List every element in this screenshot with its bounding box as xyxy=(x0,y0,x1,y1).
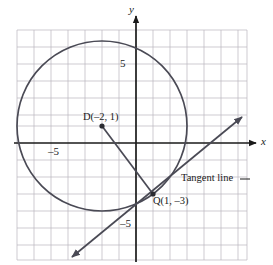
plot-canvas xyxy=(0,0,273,265)
axes xyxy=(14,16,256,262)
point-d-marker xyxy=(99,123,104,128)
point-q-label: Q(1, –3) xyxy=(153,196,189,207)
tangent-line xyxy=(72,117,242,257)
y-axis-label: y xyxy=(129,4,134,15)
point-d-label: D(–2, 1) xyxy=(83,112,119,123)
x-tick-label-neg5: –5 xyxy=(48,146,59,157)
y-tick-label-neg5: –5 xyxy=(120,218,131,229)
x-axis-label: x xyxy=(261,136,266,147)
coordinate-plane-figure: y x 5 –5 –5 D(–2, 1) Q(1, –3) Tangent li… xyxy=(0,0,273,265)
y-tick-label-5: 5 xyxy=(120,58,126,69)
tangent-line-label: Tangent line xyxy=(181,173,233,184)
